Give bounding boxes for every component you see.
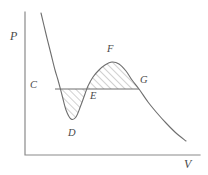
point-label-d: D: [68, 128, 76, 139]
x-axis-label: V: [184, 158, 191, 170]
pv-isotherm-figure: P V C D E F G: [0, 0, 208, 175]
point-label-e: E: [90, 91, 96, 102]
y-axis-label: P: [10, 30, 17, 42]
point-label-f: F: [107, 44, 113, 55]
point-label-g: G: [140, 75, 148, 86]
point-label-c: C: [30, 80, 37, 91]
